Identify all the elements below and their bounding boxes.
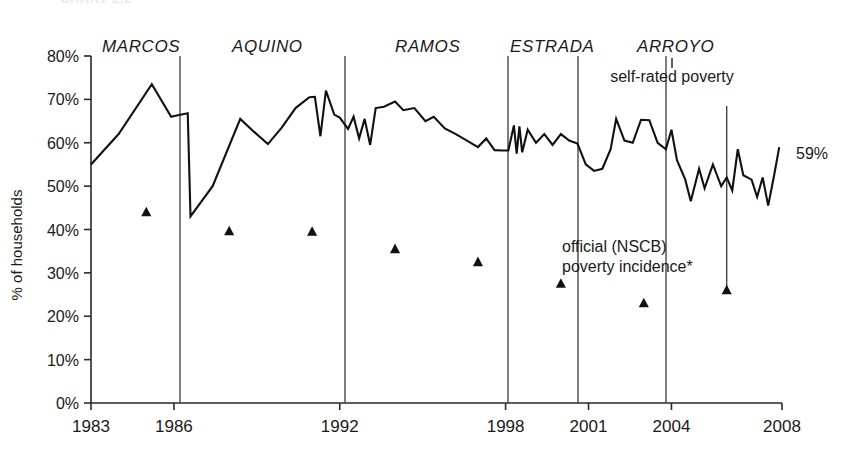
x-tick-label: 1983 — [72, 417, 110, 436]
annotation-self-rated: self-rated poverty — [610, 68, 734, 85]
x-tick-label: 2008 — [763, 417, 801, 436]
y-tick-label: 80% — [47, 48, 79, 65]
era-label-arroyo: ARROYO — [636, 37, 714, 56]
official-poverty-marker — [307, 226, 317, 236]
official-poverty-marker — [390, 244, 400, 254]
era-label-marcos: MARCOS — [102, 37, 180, 56]
y-axis-title-text: % of households — [8, 190, 25, 301]
era-labels: MARCOSAQUINORAMOSESTRADAARROYO — [102, 37, 714, 56]
official-poverty-marker — [722, 285, 732, 295]
y-tick-label: 10% — [47, 352, 79, 369]
official-poverty-markers — [141, 207, 732, 308]
y-tick-label: 0% — [56, 395, 79, 412]
self-rated-poverty-path — [91, 84, 779, 216]
official-poverty-marker — [473, 257, 483, 267]
era-label-aquino: AQUINO — [231, 37, 303, 56]
x-tick-label: 1998 — [487, 417, 525, 436]
era-label-ramos: RAMOS — [395, 37, 460, 56]
y-axis-ticks: 0%10%20%30%40%50%60%70%80% — [47, 48, 91, 412]
official-poverty-marker — [141, 207, 151, 217]
annotation-official-2: poverty incidence* — [562, 258, 693, 275]
official-poverty-marker — [556, 278, 566, 288]
chart-figure: CHART 2.2 0%10%20%30%40%50%60%70%80% 198… — [0, 0, 843, 465]
x-tick-label: 1992 — [321, 417, 359, 436]
x-axis-ticks: 1983198619921998200120042008 — [72, 403, 801, 436]
x-tick-label: 2004 — [653, 417, 691, 436]
x-tick-label: 1986 — [155, 417, 193, 436]
y-tick-label: 40% — [47, 222, 79, 239]
y-tick-label: 50% — [47, 178, 79, 195]
era-dividers — [180, 56, 666, 403]
annotation-official-1: official (NSCB) — [562, 238, 667, 255]
end-value-text: 59% — [796, 145, 828, 162]
y-tick-label: 70% — [47, 91, 79, 108]
end-value-label: 59% — [796, 145, 828, 162]
axis-lines — [91, 56, 782, 403]
clipped-header-text: CHART 2.2 — [60, 0, 132, 6]
official-poverty-marker — [224, 226, 234, 236]
y-axis-title: % of households — [8, 190, 25, 301]
y-tick-label: 60% — [47, 135, 79, 152]
axis-spine — [91, 56, 782, 403]
y-tick-label: 20% — [47, 308, 79, 325]
x-tick-label: 2001 — [570, 417, 608, 436]
self-rated-poverty-line — [91, 84, 779, 216]
y-tick-label: 30% — [47, 265, 79, 282]
poverty-line-chart: 0%10%20%30%40%50%60%70%80% 1983198619921… — [0, 0, 843, 465]
era-label-estrada: ESTRADA — [510, 37, 595, 56]
official-poverty-marker — [639, 298, 649, 308]
